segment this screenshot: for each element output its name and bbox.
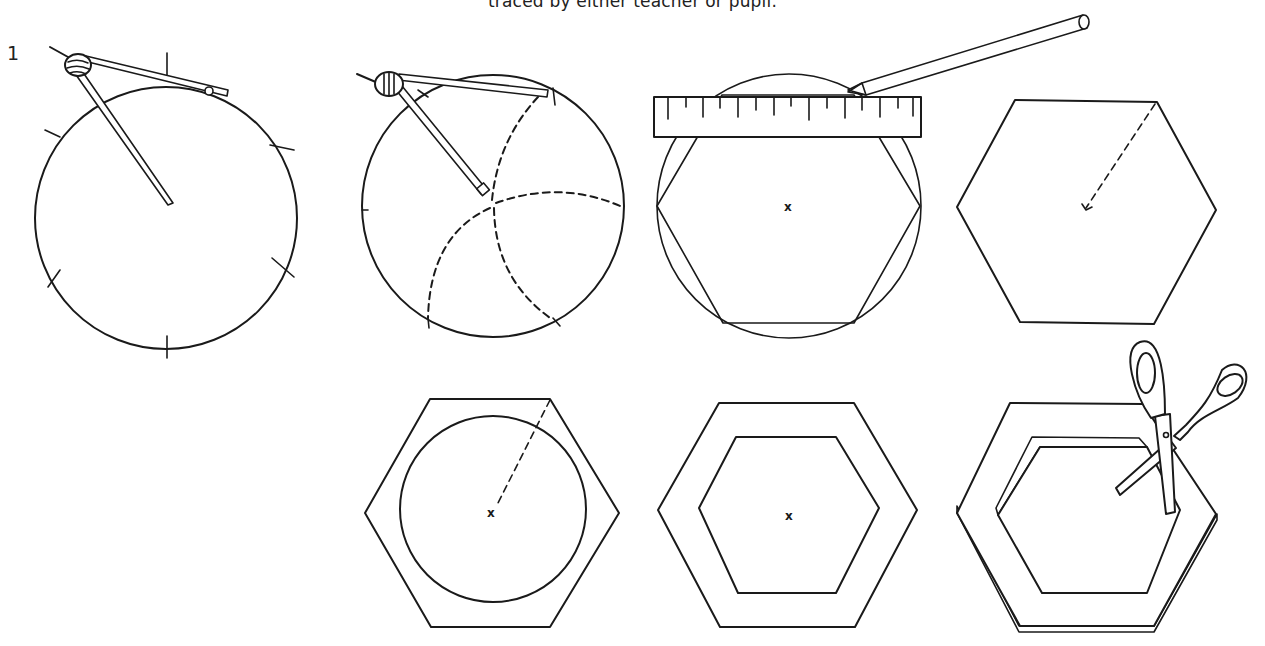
- compass-icon: [50, 47, 228, 205]
- hexagon-outline: [957, 100, 1216, 324]
- circle-outline: [35, 87, 297, 349]
- illustration-canvas: x x x: [0, 0, 1265, 646]
- center-mark: x: [784, 200, 792, 214]
- figure-6-hexagon-frame: x: [658, 403, 917, 627]
- dashed-radius: [1086, 104, 1155, 208]
- ruler-icon: [654, 97, 921, 137]
- pencil-icon: [848, 15, 1089, 95]
- figure-7-cut-frame: [957, 341, 1247, 632]
- center-mark: x: [785, 509, 793, 523]
- figure-3-ruler-hexagon: x: [654, 15, 1089, 338]
- figure-1-compass-circle: [35, 47, 297, 358]
- dashed-petal-arcs: [428, 97, 620, 320]
- compass-icon: [357, 72, 548, 196]
- figure-2-compass-arcs: [357, 72, 624, 337]
- center-mark: x: [487, 506, 495, 520]
- figure-4-hexagon-radius: [957, 100, 1216, 324]
- circle-outline: [362, 75, 624, 337]
- figure-5-hexagon-circle: x: [365, 399, 619, 627]
